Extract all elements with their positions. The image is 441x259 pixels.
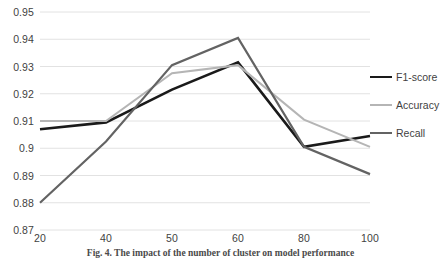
x-tick-label: 60 [232,232,244,244]
y-tick-label: 0.91 [13,115,34,127]
x-tick-label: 40 [100,232,112,244]
y-axis: 0.950.940.930.920.910.90.890.880.87 [0,12,38,230]
legend-swatch-f1-score [370,76,392,78]
x-tick-label: 20 [34,232,46,244]
y-tick-label: 0.92 [13,88,34,100]
y-tick-label: 0.87 [13,224,34,236]
figure: 0.950.940.930.920.910.90.890.880.87 2040… [0,0,441,259]
chart-legend: F1-score Accuracy Recall [370,63,441,147]
y-tick-label: 0.9 [19,142,34,154]
y-tick-label: 0.89 [13,170,34,182]
legend-label-f1-score: F1-score [396,71,437,83]
x-tick-label: 80 [298,232,310,244]
x-axis: 2040506080100 [40,232,370,248]
line-chart [40,12,370,230]
y-tick-label: 0.94 [13,33,34,45]
y-tick-label: 0.93 [13,61,34,73]
legend-item-f1-score: F1-score [370,63,441,91]
legend-label-accuracy: Accuracy [396,99,439,111]
y-tick-label: 0.88 [13,197,34,209]
legend-item-accuracy: Accuracy [370,91,441,119]
x-tick-label: 50 [166,232,178,244]
x-tick-label: 100 [361,232,379,244]
figure-caption: Fig. 4. The impact of the number of clus… [0,248,441,258]
y-tick-label: 0.95 [13,6,34,18]
legend-swatch-accuracy [370,104,392,106]
legend-item-recall: Recall [370,119,441,147]
legend-swatch-recall [370,132,392,134]
series-line-f1-score [40,62,370,146]
plot-area [40,12,370,230]
legend-label-recall: Recall [396,127,425,139]
